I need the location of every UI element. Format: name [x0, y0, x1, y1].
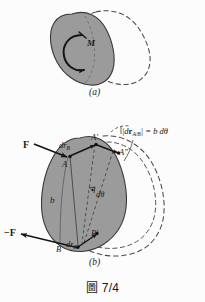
displacement-bottom-subscript: B	[74, 244, 77, 250]
point-dot-a	[68, 155, 71, 158]
displacement-top-subscript: B	[67, 145, 70, 151]
force-negative-f-label: −F	[4, 228, 16, 238]
angle-vertex-dot	[91, 189, 93, 191]
point-label-b: B	[56, 245, 61, 254]
displacement-bottom-label: drB	[66, 240, 77, 250]
point-label-a-double-prime: A″	[119, 148, 128, 157]
panel-a-graphics	[50, 11, 150, 85]
displacement-top-label: drB	[59, 141, 70, 151]
caption-number: 7/4	[102, 281, 120, 295]
caption-symbol: 圖	[86, 281, 98, 295]
panel-b-body	[41, 137, 126, 252]
panel-b-sublabel: (b)	[89, 258, 100, 268]
figure-caption: 圖 7/4	[0, 278, 205, 295]
displacement-bottom-d: dr	[66, 239, 74, 249]
angle-label-dtheta: dθ	[96, 190, 104, 199]
point-dot-a-prime	[94, 143, 97, 146]
figure-7-4: M (a) F −F drB drB A A′ A″ B B′ b dθ |dr…	[0, 0, 205, 302]
equation-dr-ab: |drA/B| = b dθ	[122, 127, 168, 137]
equation-rhs: = b dθ	[143, 126, 168, 136]
equation-subscript: A/B	[132, 131, 140, 137]
figure-artwork	[0, 0, 205, 302]
point-label-b-prime: B′	[91, 229, 98, 238]
panel-a-sublabel: (a)	[89, 88, 100, 98]
point-label-a: A	[62, 160, 67, 169]
force-f-label: F	[23, 140, 29, 150]
panel-a-body	[50, 12, 114, 85]
couple-moment-label: M	[87, 39, 95, 48]
displacement-top-d: dr	[59, 140, 67, 150]
point-label-a-prime: A′	[91, 133, 98, 142]
distance-label-b: b	[50, 196, 55, 205]
